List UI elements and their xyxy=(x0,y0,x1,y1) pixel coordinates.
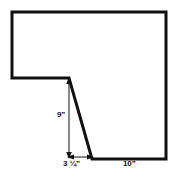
geometry-figure: 9” 3 ¼” 10” xyxy=(0,0,177,177)
short-base-dimension-label: 3 ¼” xyxy=(63,160,80,168)
height-dimension-label: 9” xyxy=(57,111,65,119)
shape-outline xyxy=(12,12,166,159)
long-base-dimension-label: 10” xyxy=(123,160,136,168)
figure-canvas xyxy=(0,0,177,177)
